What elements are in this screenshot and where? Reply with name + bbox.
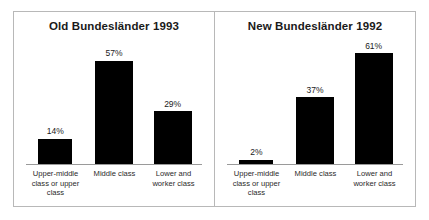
bar-right-upper-middle (239, 160, 273, 164)
category-label-left-1: Upper-middle class or upper class (26, 169, 85, 198)
bar-value-right-1: 2% (250, 147, 262, 157)
bar-value-right-2: 37% (306, 85, 323, 95)
plot-area-left: 14% 57% 29% (26, 46, 202, 165)
plot-area-right: 2% 37% 61% (227, 46, 403, 165)
category-label-right-3: Lower and worker class (345, 169, 404, 188)
bar-value-right-3: 61% (365, 41, 382, 51)
category-label-left-3: Lower and worker class (144, 169, 203, 188)
figure-frame: Old Bundesländer 1993 14% 57% 29% Upper-… (13, 11, 416, 207)
bar-value-left-3: 29% (164, 99, 181, 109)
bar-right-middle-class (296, 97, 334, 164)
bar-value-left-2: 57% (105, 48, 122, 58)
bar-right-lower-worker (355, 53, 393, 164)
category-label-left-2: Middle class (85, 169, 144, 179)
bar-slot-right-3: 61% (344, 46, 403, 164)
category-label-right-2: Middle class (286, 169, 345, 179)
bar-slot-right-2: 37% (286, 46, 345, 164)
chart-title-right: New Bundesländer 1992 (215, 20, 415, 32)
chart-panel-old-bundeslaender: Old Bundesländer 1993 14% 57% 29% Upper-… (14, 12, 215, 206)
bar-slot-left-3: 29% (143, 46, 202, 164)
bar-left-middle-class (95, 61, 133, 165)
bar-left-lower-worker (154, 111, 192, 164)
bar-slot-left-2: 57% (85, 46, 144, 164)
bar-slot-left-1: 14% (26, 46, 85, 164)
bar-value-left-1: 14% (47, 126, 64, 136)
chart-title-left: Old Bundesländer 1993 (14, 20, 214, 32)
category-label-right-1: Upper-middle class or upper class (227, 169, 286, 198)
bar-left-upper-middle (38, 139, 72, 164)
chart-panel-new-bundeslaender: New Bundesländer 1992 2% 37% 61% Upper-m… (215, 12, 415, 206)
bar-slot-right-1: 2% (227, 46, 286, 164)
